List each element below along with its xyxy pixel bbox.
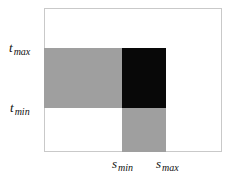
x-axis-label-s-max-sub: max	[162, 162, 179, 173]
y-axis-label-t-min-base: t	[10, 100, 14, 115]
y-axis-label-t-max: tmax	[9, 41, 29, 54]
x-axis-label-s-min: smin	[112, 157, 132, 170]
x-axis-label-s-min-sub: min	[118, 162, 133, 173]
x-axis-label-s-min-base: s	[112, 156, 117, 171]
figure-canvas: tmax tmin smin smax	[0, 0, 235, 177]
y-axis-label-t-max-base: t	[9, 40, 13, 55]
x-axis-label-s-max: smax	[156, 157, 178, 170]
region-left-band	[44, 48, 122, 108]
y-axis-label-t-min-sub: min	[15, 106, 30, 117]
region-intersection	[122, 48, 166, 108]
x-axis-label-s-max-base: s	[156, 156, 161, 171]
y-axis-label-t-min: tmin	[10, 101, 29, 114]
region-lower-band	[122, 108, 166, 152]
y-axis-label-t-max-sub: max	[14, 46, 31, 57]
